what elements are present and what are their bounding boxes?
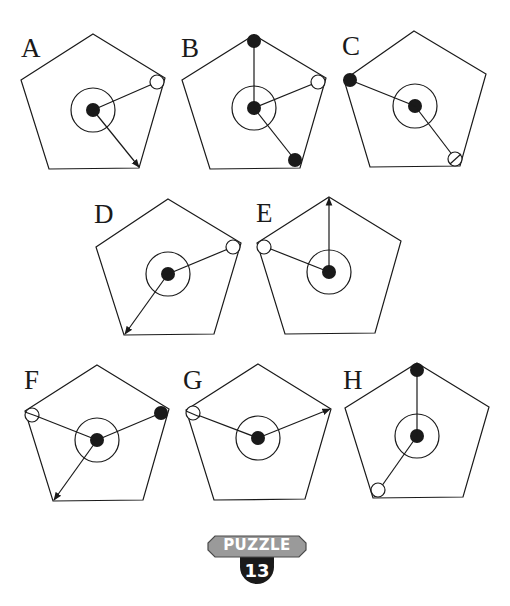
- figure-label-c: C: [342, 33, 360, 60]
- figure-h: [345, 363, 489, 498]
- badge-number: 13: [240, 560, 274, 581]
- badge-title: PUZZLE: [207, 536, 307, 554]
- figure-label-b: B: [181, 35, 199, 62]
- figure-label-h: H: [343, 367, 363, 394]
- puzzle-figures: [0, 0, 510, 606]
- figure-f: [25, 365, 169, 501]
- figure-c: [343, 31, 486, 167]
- figure-e: [257, 197, 401, 334]
- figure-label-g: G: [183, 367, 203, 394]
- figure-label-f: F: [24, 367, 39, 394]
- figure-label-d: D: [94, 201, 114, 228]
- figure-b: [182, 34, 326, 169]
- figure-d: [96, 199, 241, 335]
- figure-label-a: A: [21, 35, 41, 62]
- figure-g: [186, 364, 331, 500]
- puzzle-badge: PUZZLE 13: [207, 533, 307, 593]
- figure-label-e: E: [256, 200, 273, 227]
- figure-a: [21, 34, 165, 169]
